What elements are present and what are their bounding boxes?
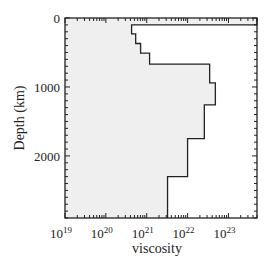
viscosity-depth-chart: 10191020102110221023 010002000 viscosity…	[0, 0, 271, 268]
svg-text:1020: 1020	[91, 225, 114, 241]
x-axis-tick-labels: 10191020102110221023	[50, 225, 236, 241]
x-axis-title: viscosity	[132, 241, 182, 256]
y-axis-tick-labels: 010002000	[34, 11, 60, 164]
y-axis-title: Depth (km)	[12, 85, 28, 150]
svg-text:1021: 1021	[132, 225, 154, 241]
svg-text:1022: 1022	[173, 225, 195, 241]
svg-text:0: 0	[54, 11, 61, 26]
viscosity-profile-area	[65, 18, 257, 218]
svg-text:1023: 1023	[213, 225, 236, 241]
svg-text:1019: 1019	[50, 225, 73, 241]
svg-text:2000: 2000	[34, 149, 60, 164]
svg-text:1000: 1000	[34, 80, 60, 95]
